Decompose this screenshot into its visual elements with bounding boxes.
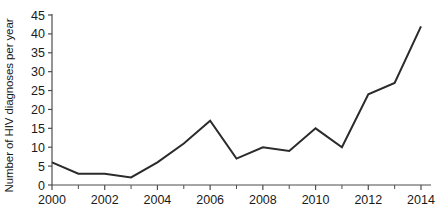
x-axis-tick-label: 2008 (249, 193, 277, 207)
x-axis-tick-label: 2014 (407, 193, 435, 207)
x-axis-tick-label: 2004 (144, 193, 172, 207)
chart-plot-area: 0510152025303540452000200220042006200820… (0, 0, 442, 211)
line-chart: Number of HIV diagnoses per year 0510152… (0, 0, 442, 211)
x-axis-tick-label: 2010 (302, 193, 330, 207)
y-axis-tick-label: 0 (38, 179, 45, 193)
y-axis-tick-label: 45 (31, 9, 45, 23)
y-axis-tick-label: 40 (31, 27, 45, 41)
y-axis-tick-label: 20 (31, 103, 45, 117)
y-axis-tick-label: 10 (31, 141, 45, 155)
x-axis-tick-label: 2006 (196, 193, 224, 207)
data-series-line (52, 26, 421, 177)
y-axis-tick-label: 25 (31, 84, 45, 98)
y-axis-tick-label: 5 (38, 160, 45, 174)
x-axis-tick-label: 2000 (38, 193, 66, 207)
x-axis-tick-label: 2002 (91, 193, 119, 207)
y-axis-tick-label: 35 (31, 46, 45, 60)
y-axis-tick-label: 15 (31, 122, 45, 136)
x-axis-tick-label: 2012 (354, 193, 382, 207)
y-axis-tick-label: 30 (31, 65, 45, 79)
